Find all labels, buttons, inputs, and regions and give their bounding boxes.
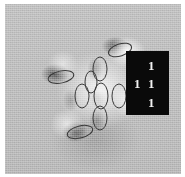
ellipse-center-left	[75, 84, 89, 108]
ellipse-center-bottom	[93, 106, 107, 130]
miller-index-label: 1 1 1 1	[126, 51, 169, 115]
ellipse-center-right	[112, 84, 126, 108]
index-digit-top: 1	[148, 59, 155, 72]
ellipse-left	[47, 68, 75, 85]
index-digit-middle-left: 1	[134, 77, 141, 90]
ellipse-center-top	[93, 57, 107, 81]
index-digit-bottom: 1	[148, 96, 155, 109]
index-digit-middle-right: 1	[148, 77, 155, 90]
ellipse-center	[94, 83, 108, 109]
micrograph-figure: 1 1 1 1	[0, 0, 185, 177]
ellipse-lower-left	[66, 123, 94, 141]
